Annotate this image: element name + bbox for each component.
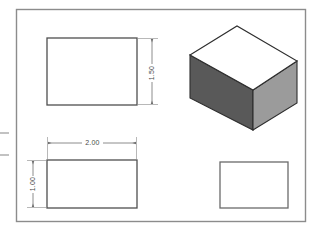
dimension-text-height: 1.50	[148, 66, 155, 80]
dimension-text-width: 2.00	[85, 139, 99, 146]
top-view-rectangle[interactable]	[47, 160, 137, 208]
front-view-rectangle[interactable]	[47, 38, 137, 105]
technical-drawing-svg: 1.50 2.00 1.00	[0, 0, 322, 234]
drawing-canvas: 1.50 2.00 1.00	[0, 0, 322, 234]
right-side-view-rectangle[interactable]	[220, 162, 288, 208]
dimension-text-depth: 1.00	[29, 177, 36, 191]
